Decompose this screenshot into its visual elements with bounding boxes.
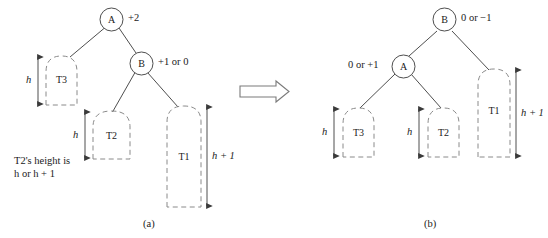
- rotation-arrow-shape: [240, 81, 289, 102]
- edge-a-to-t2: [411, 74, 441, 108]
- node-a-balance-label: +2: [128, 12, 139, 24]
- node-b-label: B: [441, 14, 448, 25]
- subtree-t3-height-label: h: [26, 74, 31, 86]
- subtree-t1-label: T1: [488, 105, 499, 116]
- edge-a-to-t3: [360, 74, 395, 108]
- rotation-arrow-graphic: [240, 81, 289, 102]
- node-a-label: A: [400, 61, 408, 72]
- panel-a-caption: (a): [143, 218, 155, 230]
- edge-a-to-t3: [70, 28, 105, 57]
- subtree-t3-height-label: h: [322, 126, 327, 138]
- figure-drawing: A B T3 T2 T1: [0, 0, 548, 238]
- edge-b-to-t2: [113, 73, 136, 113]
- subtree-t2-label: T2: [106, 130, 117, 141]
- node-b-balance-label: 0 or −1: [461, 12, 491, 24]
- subtree-t1-height-label: h + 1: [212, 150, 235, 162]
- edge-b-to-a: [409, 31, 437, 56]
- node-b-label: B: [138, 58, 145, 69]
- t2-height-note: T2's height is h or h + 1: [14, 155, 70, 180]
- subtree-t2-label: T2: [438, 127, 449, 138]
- node-b-balance-label: +1 or 0: [158, 56, 188, 68]
- edge-b-to-t1: [148, 73, 179, 108]
- panel-b-caption: (b): [424, 218, 436, 230]
- subtree-t1-height-label: h + 1: [521, 107, 544, 119]
- node-a-balance-label: 0 or +1: [348, 59, 378, 71]
- edge-a-to-b: [119, 28, 136, 53]
- panel-a-edges: [70, 28, 178, 112]
- node-a-label: A: [108, 14, 116, 25]
- subtree-t1-label: T1: [178, 151, 189, 162]
- figure-container: A B T3 T2 T1: [0, 0, 548, 238]
- edge-b-to-t1: [452, 31, 489, 70]
- subtree-t2-height-label: h: [407, 126, 412, 138]
- subtree-t3-label: T3: [353, 127, 364, 138]
- subtree-t3-label: T3: [56, 74, 67, 85]
- panel-b-edges: [360, 31, 489, 108]
- panel-b-graphics: B A T3 T2 T1: [334, 8, 516, 157]
- subtree-t2-height-label: h: [73, 129, 78, 141]
